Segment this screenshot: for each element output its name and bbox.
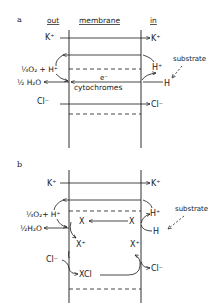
substrate-label: substrate: [173, 55, 206, 63]
h-to-x-curve-b: [141, 225, 152, 231]
k-out-label: K⁺: [45, 33, 54, 42]
h-in-label: H⁺: [152, 63, 162, 72]
cl-in-label: Cl⁻: [151, 100, 163, 109]
electron-label: e⁻: [100, 74, 108, 82]
cl-to-xcl-curve-b: [62, 260, 78, 274]
oxygen-proton-label-b: ¼O₂+ H⁺: [26, 210, 60, 219]
cl-release-curve-b: [141, 262, 150, 268]
water-label: ½ H₂O: [17, 78, 41, 87]
water-label-b: ½H₂O: [20, 224, 42, 233]
xcl-transfer-curve-b: [100, 255, 140, 275]
header-out: out: [47, 16, 59, 25]
panel-b: b K⁺ K⁺ ¼O₂+ H⁺ H⁺ substrate X X ½H₂O X⁺…: [17, 160, 208, 303]
oxygen-proton-label: ¼O₂ + H⁺: [21, 65, 58, 74]
k-in-label-b: K⁺: [151, 179, 160, 188]
h-substrate-label: H: [164, 79, 170, 88]
cytochromes-label: cytochromes: [74, 83, 122, 92]
proton-curve-out-b: [54, 200, 63, 210]
cl-out-label-b: Cl⁻: [46, 255, 58, 264]
x-out-label-b: X: [79, 217, 85, 226]
o2-to-membrane-curve: [56, 74, 68, 81]
panel-a: a out membrane in K⁺ K⁺ ¼O₂ + H⁺ H⁺ subs…: [17, 15, 206, 148]
xplus-in-label-b: X⁺: [130, 240, 140, 249]
substrate-arrow-b: [168, 216, 184, 229]
x-in-label-b: X: [129, 217, 135, 226]
proton-curve-in-b: [143, 200, 152, 208]
cl-in-label-b: Cl⁻: [151, 264, 163, 273]
x-to-xplus-curve-b: [70, 222, 76, 238]
h-substrate-label-b: H: [153, 227, 159, 236]
header-membrane: membrane: [79, 16, 120, 25]
cl-out-label: Cl⁻: [37, 97, 49, 106]
o2-to-membrane-curve-b: [57, 219, 67, 227]
k-out-label-b: K⁺: [47, 179, 56, 188]
xplus-out-label-b: X⁺: [76, 240, 86, 249]
panel-a-label: a: [17, 15, 22, 24]
substrate-arrow: [172, 66, 182, 78]
substrate-label-b: substrate: [175, 205, 208, 213]
x-to-proton-curve-b: [141, 214, 150, 223]
header-in: in: [150, 16, 157, 25]
h-to-proton-curve: [142, 73, 156, 80]
proton-curve-in: [143, 55, 154, 62]
h-in-label-b: H⁺: [150, 209, 160, 218]
panel-b-label: b: [17, 160, 22, 169]
membrane-transport-diagram: a out membrane in K⁺ K⁺ ¼O₂ + H⁺ H⁺ subs…: [0, 0, 221, 308]
xcl-label-b: XCl: [79, 270, 92, 279]
k-in-label: K⁺: [151, 34, 160, 43]
